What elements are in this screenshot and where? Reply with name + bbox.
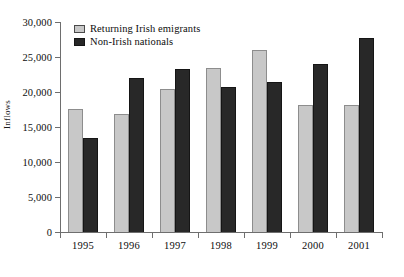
- x-tick-mark: [244, 233, 245, 238]
- x-tick-label: 1995: [72, 240, 94, 251]
- y-tick-label: 20,000: [23, 87, 52, 98]
- bar: [206, 68, 221, 232]
- x-tick-mark: [152, 233, 153, 238]
- plot-area: 05,00010,00015,00020,00025,00030,000 199…: [60, 22, 382, 232]
- x-tick-mark: [336, 233, 337, 238]
- bar: [359, 38, 374, 232]
- x-tick-mark: [198, 233, 199, 238]
- bar: [252, 50, 267, 232]
- x-tick-label: 1999: [256, 240, 278, 251]
- x-tick-mark: [60, 233, 61, 238]
- bar: [298, 105, 313, 232]
- bar-chart: Inflows 05,00010,00015,00020,00025,00030…: [0, 0, 404, 277]
- y-tick-mark: [55, 197, 60, 198]
- legend-item-non-irish-nationals: Non-Irish nationals: [74, 35, 200, 48]
- y-tick-mark: [55, 162, 60, 163]
- y-tick-mark: [55, 127, 60, 128]
- bar: [221, 87, 236, 232]
- y-tick-label: 15,000: [23, 122, 52, 133]
- bar: [160, 89, 175, 232]
- x-tick-mark: [106, 233, 107, 238]
- x-tick-label: 2000: [302, 240, 324, 251]
- x-tick-label: 1996: [118, 240, 140, 251]
- legend-label-returning-irish-emigrants: Returning Irish emigrants: [90, 23, 200, 34]
- x-tick-label: 1998: [210, 240, 232, 251]
- bar: [175, 69, 190, 232]
- x-axis-line: [60, 232, 383, 233]
- legend-item-returning-irish-emigrants: Returning Irish emigrants: [74, 22, 200, 35]
- legend-label-non-irish-nationals: Non-Irish nationals: [90, 36, 173, 47]
- legend-swatch-dark: [74, 38, 85, 46]
- y-tick-label: 10,000: [23, 157, 52, 168]
- x-tick-label: 1997: [164, 240, 186, 251]
- y-tick-label: 5,000: [28, 192, 52, 203]
- x-tick-mark: [382, 233, 383, 238]
- bar: [114, 114, 129, 232]
- y-tick-mark: [55, 57, 60, 58]
- y-tick-mark: [55, 92, 60, 93]
- legend-swatch-light: [74, 25, 85, 33]
- y-tick-mark: [55, 22, 60, 23]
- bar: [313, 64, 328, 232]
- bar: [68, 109, 83, 232]
- x-tick-label: 2001: [348, 240, 370, 251]
- y-axis-title: Inflows: [2, 100, 16, 129]
- bar: [83, 138, 98, 233]
- y-tick-label: 30,000: [23, 17, 52, 28]
- y-tick-label: 25,000: [23, 52, 52, 63]
- bar: [267, 82, 282, 233]
- y-tick-label: 0: [47, 227, 52, 238]
- x-tick-mark: [290, 233, 291, 238]
- bar: [129, 78, 144, 232]
- bar: [344, 105, 359, 232]
- y-axis-line: [60, 22, 61, 233]
- chart-legend: Returning Irish emigrants Non-Irish nati…: [74, 22, 200, 48]
